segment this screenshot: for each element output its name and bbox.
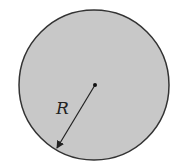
radius-label: R [55, 98, 69, 118]
center-dot [93, 83, 97, 87]
circle-diagram: R [0, 0, 179, 166]
